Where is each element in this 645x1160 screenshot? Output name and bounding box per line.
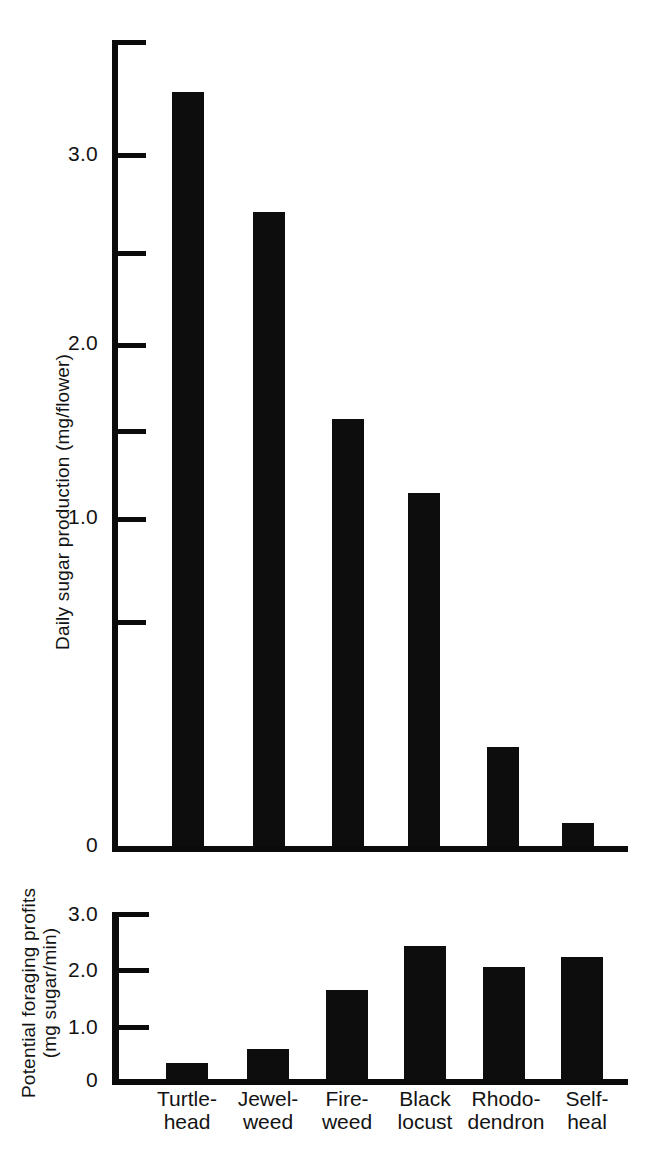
top-chart-tick-1-0 <box>116 517 146 522</box>
bottom-chart-ytick-label-2-0: 2.0 <box>48 958 98 982</box>
top-chart-tick-2-0 <box>116 343 146 348</box>
top-chart-tick-1-5 <box>116 429 146 434</box>
bar-black-locust-profit <box>404 946 446 1079</box>
bar-fire-weed-profit <box>326 990 368 1079</box>
bottom-chart-y-axis-label-line1: Potential foraging profits <box>18 888 39 1098</box>
top-chart-ytick-label-2-0: 2.0 <box>48 331 98 355</box>
bar-jewel-weed-sugar <box>253 212 285 846</box>
top-chart-tick-2-5 <box>116 251 146 256</box>
bottom-chart-tick-2-0 <box>117 968 149 973</box>
bar-turtle-head-sugar <box>172 92 204 846</box>
top-chart-tick-3-5 <box>116 40 146 45</box>
bar-rhododendron-sugar <box>487 747 519 846</box>
bottom-chart-ytick-label-3-0: 3.0 <box>48 902 98 926</box>
bar-self-heal-sugar <box>562 823 594 846</box>
figure-bar-chart-pair: Daily sugar production (mg/flower) 3.0 2… <box>0 0 645 1160</box>
bar-black-locust-sugar <box>408 493 440 846</box>
top-chart-panel: Daily sugar production (mg/flower) 3.0 2… <box>0 0 645 870</box>
bottom-chart-x-axis-line <box>112 1079 628 1085</box>
top-chart-y-axis-label: Daily sugar production (mg/flower) <box>52 354 74 650</box>
category-label-self-heal: Self- heal <box>537 1088 637 1133</box>
top-chart-x-axis-line <box>112 846 628 852</box>
bar-turtle-head-profit <box>166 1063 208 1079</box>
bar-rhododendron-profit <box>483 967 525 1079</box>
top-chart-y-axis-line <box>112 40 118 852</box>
bar-fire-weed-sugar <box>332 419 364 846</box>
top-chart-ytick-label-0: 0 <box>48 833 98 857</box>
bottom-chart-ytick-label-1-0: 1.0 <box>48 1015 98 1039</box>
top-chart-tick-3-0 <box>116 153 146 158</box>
top-chart-ytick-label-3-0: 3.0 <box>48 142 98 166</box>
top-chart-tick-0-5 <box>116 620 146 625</box>
category-label-self-heal-line1: Self- <box>537 1088 637 1111</box>
top-chart-ytick-label-1-0: 1.0 <box>48 505 98 529</box>
bar-jewel-weed-profit <box>247 1049 289 1079</box>
bar-self-heal-profit <box>561 957 603 1079</box>
category-label-self-heal-line2: heal <box>537 1111 637 1134</box>
bottom-chart-tick-3-0 <box>117 912 149 917</box>
bottom-chart-panel: Potential foraging profits (mg sugar/min… <box>0 880 645 1160</box>
bottom-chart-tick-1-0 <box>117 1025 149 1030</box>
bottom-chart-y-axis-line <box>112 912 119 1084</box>
bottom-chart-ytick-label-0: 0 <box>48 1068 98 1092</box>
